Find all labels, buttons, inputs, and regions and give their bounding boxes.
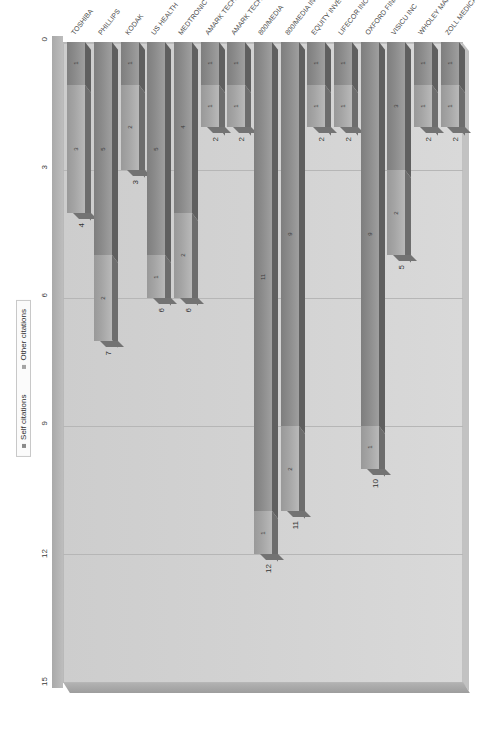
bar-segment: 9 [361, 42, 379, 426]
bar-segment: 1 [67, 42, 85, 85]
bar-row: 112 [201, 42, 219, 682]
segment-value-label: 1 [313, 62, 319, 65]
segment-value-label: 1 [260, 531, 266, 534]
bar-segment: 1 [441, 42, 459, 85]
bar-total-label: 10 [371, 479, 380, 488]
category-label: TOSHIBA [70, 8, 94, 36]
bar-segment: 2 [174, 213, 192, 298]
segment-value-label: 1 [447, 104, 453, 107]
category-label: 800/MEDIA [257, 4, 285, 37]
segment-value-label: 2 [180, 254, 186, 257]
chart-figure: 1345271235164261121121111292111121129110… [0, 0, 477, 754]
legend-label: Self citations [19, 395, 28, 440]
category-label: KODAK [123, 13, 144, 37]
bar-row: 112 [414, 42, 432, 682]
bar-total-label: 2 [424, 137, 433, 141]
bar-segment-top-face [432, 42, 438, 92]
bar-row: 527 [94, 42, 112, 682]
bar-segment: 1 [441, 85, 459, 128]
bar-segment-top-face [192, 213, 198, 306]
legend-label: Other citations [19, 309, 28, 361]
bar-segment: 2 [387, 170, 405, 255]
bar-total-label: 2 [317, 137, 326, 141]
segment-value-label: 11 [260, 274, 266, 280]
bar-segment: 2 [281, 426, 299, 511]
segment-value-label: 1 [233, 104, 239, 107]
bar-total-label: 3 [131, 180, 140, 184]
bar-segment: 9 [281, 42, 299, 426]
segment-value-label: 1 [233, 62, 239, 65]
bar-row: 516 [147, 42, 165, 682]
legend-swatch-icon [22, 365, 26, 369]
bar-segment-top-face [299, 42, 305, 434]
bar-segment: 1 [307, 85, 325, 128]
segment-value-label: 3 [393, 104, 399, 107]
legend-swatch-icon [22, 444, 26, 448]
rotated-figure-wrapper: 1345271235164261121121111292111121129110… [0, 0, 477, 754]
segment-value-label: 2 [287, 467, 293, 470]
bar-segment: 1 [334, 42, 352, 85]
bar-segment-top-face [139, 85, 145, 178]
x-tick-label: 0 [40, 37, 49, 41]
bar-segment-top-face [352, 42, 358, 92]
bar-segment: 1 [414, 42, 432, 85]
bar-segment-top-face [192, 42, 198, 220]
x-tick-label: 12 [40, 549, 49, 558]
bar-segment: 2 [121, 85, 139, 170]
bar-segment-top-face [379, 42, 385, 434]
segment-value-label: 1 [447, 62, 453, 65]
bar-segment-top-face [112, 255, 118, 348]
legend-item[interactable]: Other citations [19, 309, 28, 369]
bar-segment-top-face [245, 42, 251, 92]
segment-value-label: 1 [207, 104, 213, 107]
bar-segment: 2 [94, 255, 112, 340]
category-label: VISICU INC [390, 2, 419, 36]
segment-value-label: 1 [420, 62, 426, 65]
bar-segment-top-face [405, 170, 411, 263]
segment-value-label: 1 [340, 62, 346, 65]
bar-row: 9110 [361, 42, 379, 682]
bar-segment: 5 [94, 42, 112, 255]
legend-item[interactable]: Self citations [19, 395, 28, 448]
segment-value-label: 1 [340, 104, 346, 107]
bar-segment: 1 [227, 42, 245, 85]
bar-segment-top-face [85, 85, 91, 221]
plot-side-face [63, 682, 470, 693]
gridline [63, 682, 463, 683]
bar-segment: 1 [254, 511, 272, 554]
bar-total-label: 2 [237, 137, 246, 141]
bar-segment: 11 [254, 42, 272, 511]
bar-total-label: 5 [397, 265, 406, 269]
x-tick-label: 6 [40, 293, 49, 297]
bar-row: 325 [387, 42, 405, 682]
bar-row: 9211 [281, 42, 299, 682]
segment-value-label: 1 [207, 62, 213, 65]
bar-total-label: 11 [291, 521, 300, 529]
bar-segment: 1 [334, 85, 352, 128]
bar-total-label: 2 [344, 137, 353, 141]
bar-row: 426 [174, 42, 192, 682]
plot-floor-top-face [462, 42, 469, 691]
segment-value-label: 9 [287, 232, 293, 235]
bar-segment: 1 [201, 85, 219, 128]
bar-row: 112 [307, 42, 325, 682]
bar-segment: 1 [361, 426, 379, 469]
bar-segment: 1 [414, 85, 432, 128]
segment-value-label: 2 [393, 211, 399, 214]
x-tick-label: 3 [40, 165, 49, 169]
chart-legend: Self citationsOther citations [16, 300, 31, 457]
bar-row: 112 [441, 42, 459, 682]
bar-row: 11112 [254, 42, 272, 682]
bar-segment-top-face [405, 42, 411, 178]
bar-segment: 1 [147, 255, 165, 298]
bar-segment-top-face [112, 42, 118, 263]
plot-front-face [52, 36, 63, 688]
segment-value-label: 1 [420, 104, 426, 107]
bar-row: 134 [67, 42, 85, 682]
bar-segment-top-face [165, 42, 171, 263]
bar-segment-top-face [272, 42, 278, 519]
bar-segment: 1 [227, 85, 245, 128]
bar-row: 112 [334, 42, 352, 682]
segment-value-label: 1 [73, 62, 79, 65]
bar-segment-top-face [299, 426, 305, 519]
